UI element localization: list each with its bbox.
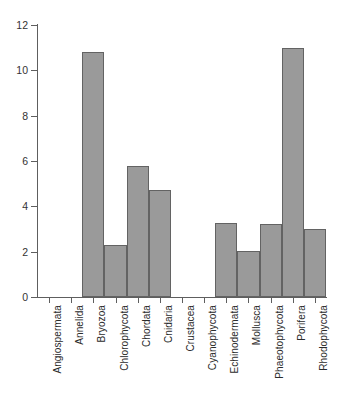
x-label-cnidaria: Cnidaria	[164, 305, 174, 343]
bar-rhodophycota[interactable]	[304, 229, 326, 297]
x-label-bryozoa: Bryozoa	[97, 305, 107, 342]
y-tick-label: 2	[2, 247, 28, 258]
x-label-echinodermata: Echinodermata	[230, 305, 240, 374]
x-tick-mark	[160, 298, 161, 303]
y-tick-mark	[31, 25, 38, 26]
y-tick-label: 6	[2, 156, 28, 167]
x-label-chordata: Chordata	[142, 305, 152, 347]
x-label-cyanophycota: Cyanophycota	[208, 305, 218, 370]
x-tick-mark	[271, 298, 272, 303]
x-tick-mark	[315, 298, 316, 303]
x-tick-mark	[71, 298, 72, 303]
x-label-crustacea: Crustacea	[186, 305, 196, 351]
x-label-mollusca: Mollusca	[252, 305, 262, 345]
bar-echinodermata[interactable]	[215, 223, 237, 297]
bar-chart: 024681012 AngiospermataAnnelidaBryozoaCh…	[0, 0, 354, 394]
x-label-phaeotophycota: Phaeotophycota	[275, 305, 285, 379]
x-tick-mark	[204, 298, 205, 303]
x-tick-mark	[49, 298, 50, 303]
bar-porifera[interactable]	[282, 48, 304, 297]
bar-bryozoa[interactable]	[82, 52, 104, 297]
bar-mollusca[interactable]	[237, 251, 259, 297]
y-tick-mark	[31, 297, 38, 298]
x-label-annelida: Annelida	[75, 305, 85, 345]
x-tick-mark	[116, 298, 117, 303]
x-tick-mark	[226, 298, 227, 303]
x-tick-mark	[248, 298, 249, 303]
y-tick-mark	[31, 161, 38, 162]
y-tick-label: 4	[2, 201, 28, 212]
bar-chordata[interactable]	[127, 166, 149, 297]
plot-area	[38, 25, 326, 297]
x-label-rhodophycota: Rhodophycota	[319, 305, 329, 371]
bar-phaeotophycota[interactable]	[260, 224, 282, 297]
y-tick-mark	[31, 206, 38, 207]
bar-cnidaria[interactable]	[149, 190, 171, 297]
x-tick-mark	[138, 298, 139, 303]
y-tick-mark	[31, 116, 38, 117]
y-tick-mark	[31, 252, 38, 253]
bar-chlorophycota[interactable]	[104, 245, 126, 297]
x-tick-mark	[182, 298, 183, 303]
y-tick-mark	[31, 70, 38, 71]
x-label-chlorophycota: Chlorophycota	[120, 305, 130, 371]
x-label-porifera: Porifera	[297, 305, 307, 341]
y-tick-label: 8	[2, 111, 28, 122]
x-tick-mark	[293, 298, 294, 303]
y-tick-label: 0	[2, 292, 28, 303]
y-tick-label: 12	[2, 20, 28, 31]
x-tick-mark	[93, 298, 94, 303]
x-label-angiospermata: Angiospermata	[53, 305, 63, 374]
y-tick-label: 10	[2, 65, 28, 76]
